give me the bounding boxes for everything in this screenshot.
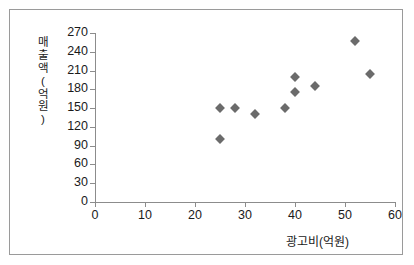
data-point [230, 103, 240, 113]
y-axis-title-char: 억 [34, 88, 52, 101]
data-point [350, 36, 360, 46]
data-point [290, 88, 300, 98]
x-axis-tick-label: 30 [225, 208, 265, 222]
y-axis-title-char: ) [34, 113, 52, 126]
y-axis-tick-label: 60 [42, 157, 88, 170]
x-axis-tick [145, 202, 146, 207]
x-axis-tick [195, 202, 196, 207]
data-point [250, 109, 260, 119]
y-axis-title-char: 출 [34, 49, 52, 62]
y-axis-title-char: 액 [34, 62, 52, 75]
x-axis-tick-label: 60 [375, 208, 414, 222]
y-axis-tick-label: 90 [42, 139, 88, 152]
x-axis-tick-label: 20 [175, 208, 215, 222]
data-point [365, 69, 375, 79]
data-point [290, 72, 300, 82]
x-axis-title: 광고비(억원) [286, 232, 349, 249]
y-axis-tick-label: 0 [42, 195, 88, 208]
y-axis-line [95, 33, 96, 203]
y-axis-tick [90, 52, 95, 53]
y-axis-tick-label: 30 [42, 176, 88, 189]
data-point [280, 103, 290, 113]
y-axis-tick [90, 108, 95, 109]
x-axis-tick [245, 202, 246, 207]
y-axis-tick [90, 33, 95, 34]
x-axis-tick-label: 0 [75, 208, 115, 222]
scatter-plot: 03060901201501802102402700102030405060매출… [10, 10, 414, 265]
data-point [215, 103, 225, 113]
x-axis-tick [95, 202, 96, 207]
y-axis-tick [90, 127, 95, 128]
y-axis-title-char: ( [34, 75, 52, 88]
y-axis-tick [90, 164, 95, 165]
y-axis-title-char: 원 [34, 100, 52, 113]
x-axis-tick-label: 10 [125, 208, 165, 222]
y-axis-tick [90, 71, 95, 72]
y-axis-title-char: 매 [34, 36, 52, 49]
x-axis-tick [295, 202, 296, 207]
y-axis-title: 매출액(억원) [34, 36, 52, 126]
x-axis-tick [395, 202, 396, 207]
x-axis-tick-label: 50 [325, 208, 365, 222]
chart-frame: 03060901201501802102402700102030405060매출… [9, 9, 403, 255]
x-axis-tick-label: 40 [275, 208, 315, 222]
y-axis-tick [90, 89, 95, 90]
x-axis-tick [345, 202, 346, 207]
data-point [215, 134, 225, 144]
y-axis-tick [90, 146, 95, 147]
data-point [310, 81, 320, 91]
y-axis-tick [90, 183, 95, 184]
